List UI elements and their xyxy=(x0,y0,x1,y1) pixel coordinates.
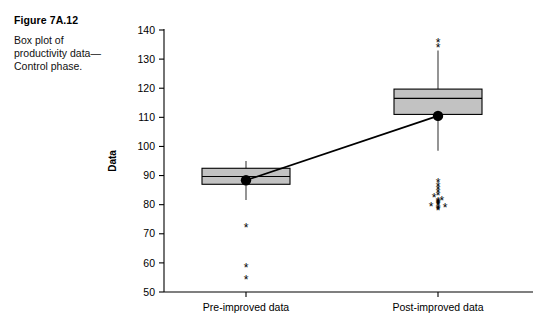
outlier-marker: * xyxy=(436,204,441,218)
outlier-marker: * xyxy=(244,273,249,287)
outlier-marker: * xyxy=(244,221,249,235)
outlier-marker: * xyxy=(429,200,434,214)
y-axis-tick-label: 70 xyxy=(143,227,155,239)
box-rect xyxy=(394,89,482,114)
y-axis-tick-label: 80 xyxy=(143,198,155,210)
mean-connector-line xyxy=(246,116,438,180)
box-plot-svg: 5060708090100110120130140DataPre-improve… xyxy=(0,0,545,326)
outlier-marker: * xyxy=(443,201,448,215)
y-axis-title: Data xyxy=(107,150,118,172)
y-axis-tick-label: 50 xyxy=(143,286,155,298)
box-plot: 5060708090100110120130140DataPre-improve… xyxy=(0,0,545,326)
x-axis-tick-label: Post-improved data xyxy=(392,301,483,313)
outlier-marker: * xyxy=(436,41,441,55)
y-axis-tick-label: 100 xyxy=(137,140,155,152)
y-axis-tick-label: 90 xyxy=(143,169,155,181)
figure-container: Figure 7A.12 Box plot of productivity da… xyxy=(0,0,545,326)
x-axis-tick-label: Pre-improved data xyxy=(203,301,290,313)
y-axis-tick-label: 130 xyxy=(137,53,155,65)
y-axis-tick-label: 110 xyxy=(138,111,155,123)
y-axis-tick-label: 60 xyxy=(143,257,155,269)
mean-marker-dot xyxy=(433,111,443,121)
y-axis-tick-label: 140 xyxy=(137,24,155,36)
mean-marker-dot xyxy=(241,175,251,185)
y-axis-tick-label: 120 xyxy=(137,82,155,94)
